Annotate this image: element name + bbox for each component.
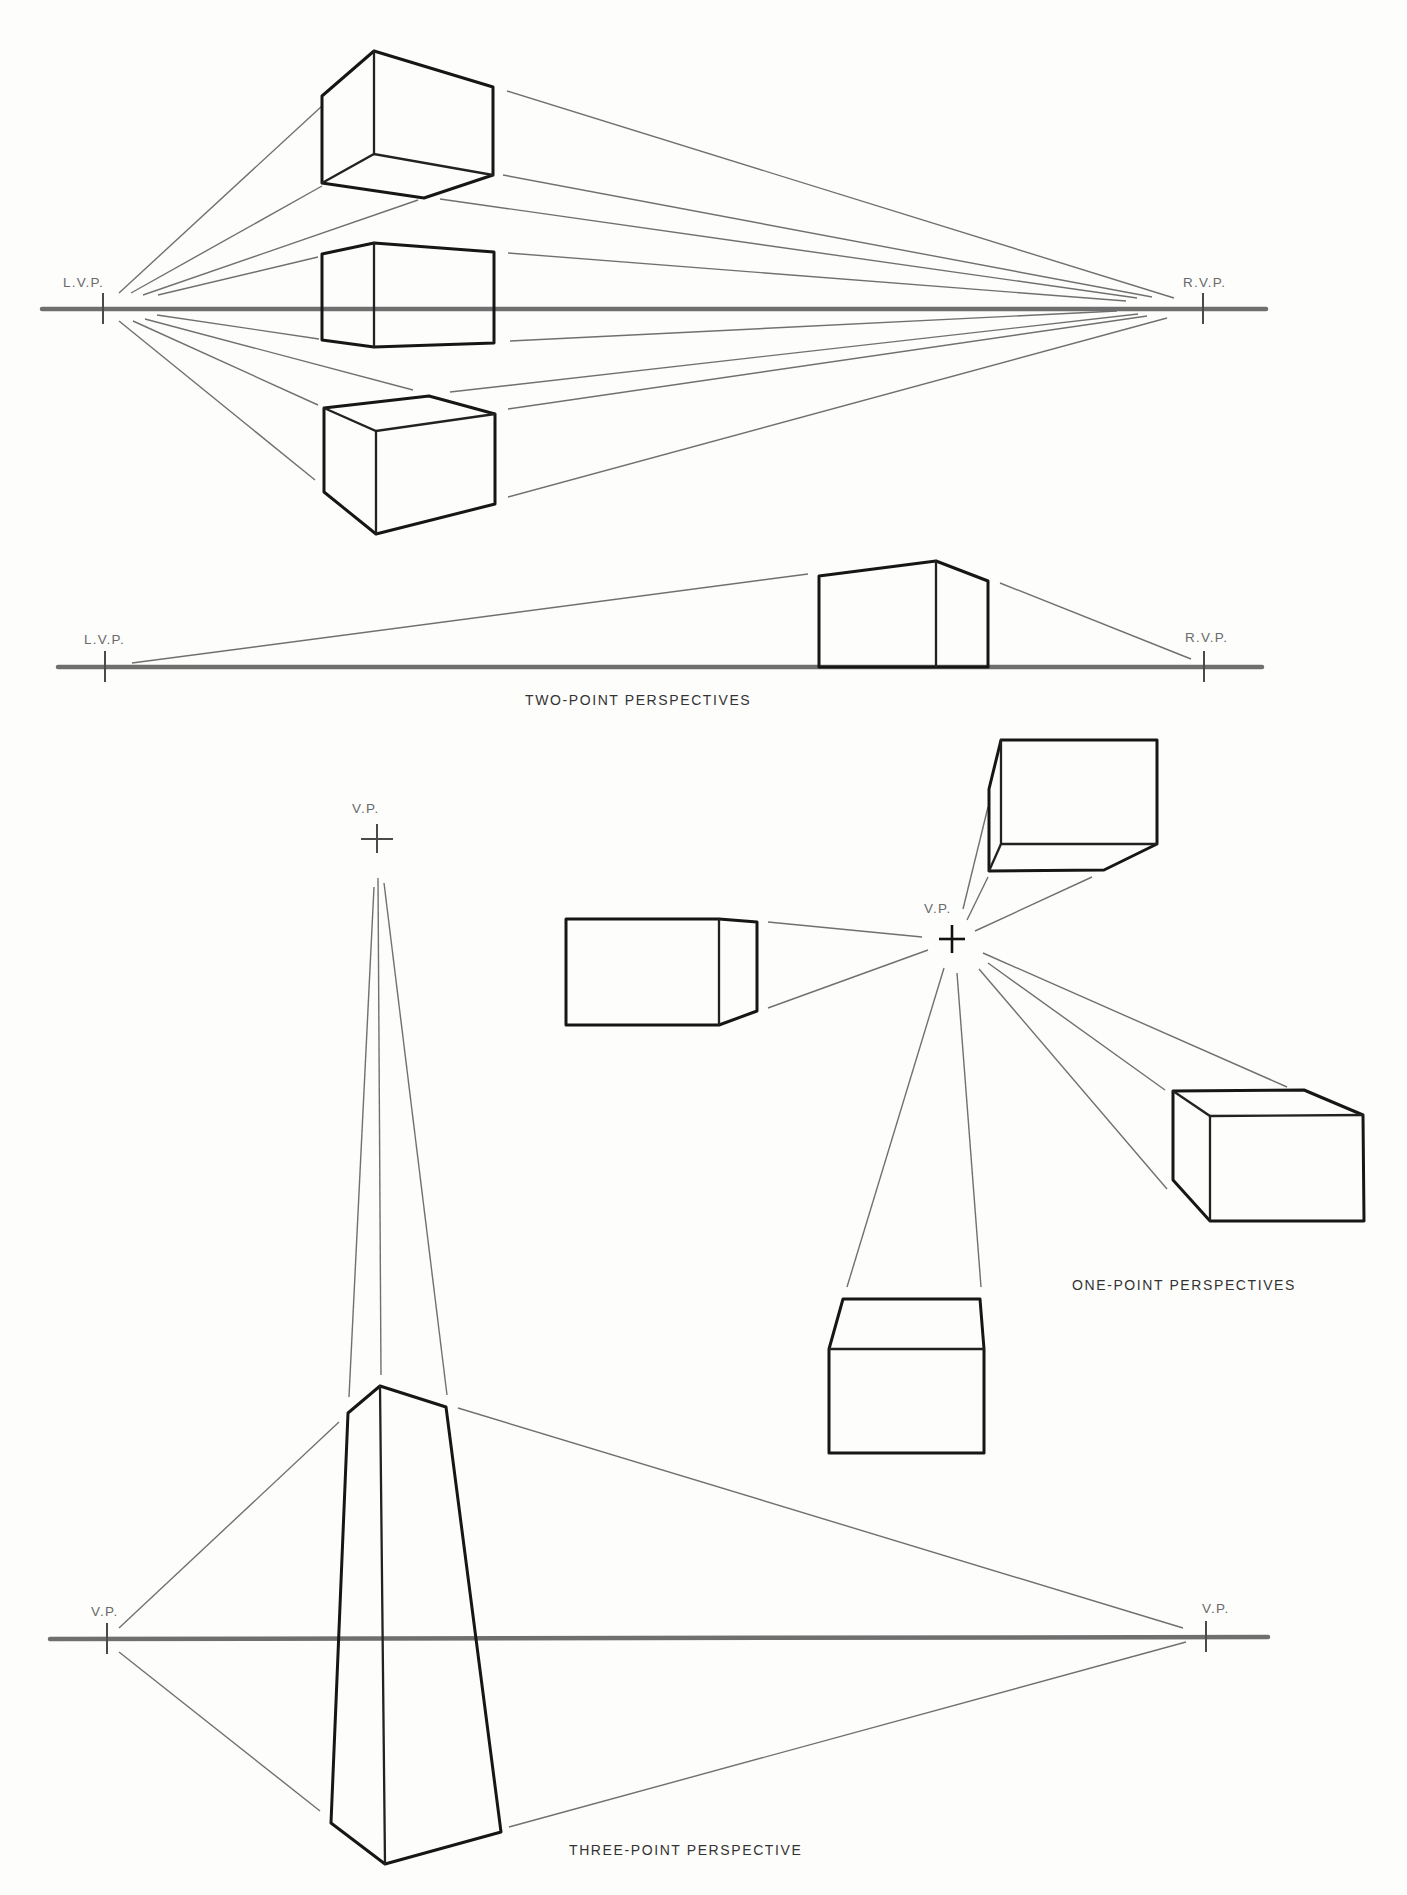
guide-line <box>979 969 1167 1189</box>
solid-edge <box>989 844 1001 871</box>
vp-three-left-label: V.P. <box>91 1604 118 1619</box>
guide-line <box>440 199 1137 298</box>
caption-two-point-perspectives: TWO-POINT PERSPECTIVES <box>525 692 751 708</box>
guide-line <box>508 253 1126 301</box>
rvp-2-label: R.V.P. <box>1185 630 1228 645</box>
guide-line <box>957 973 981 1287</box>
solid-edge <box>322 154 493 183</box>
lvp-1-label: L.V.P. <box>63 275 104 290</box>
solid-edge <box>324 408 495 431</box>
guide-line <box>967 877 988 920</box>
solid-edge <box>829 1299 984 1453</box>
two-point-box-below <box>324 396 495 534</box>
vp-one-point-label: V.P. <box>924 901 951 916</box>
guide-line <box>132 574 808 663</box>
guide-line <box>503 175 1152 297</box>
vp-three-right-label: V.P. <box>1202 1601 1229 1616</box>
one-point-box-left <box>566 919 757 1025</box>
perspective-guide-lines <box>119 91 1287 1827</box>
rvp-1-label: R.V.P. <box>1183 275 1226 290</box>
solid-edge <box>322 51 493 198</box>
guide-line <box>963 807 988 909</box>
perspective-diagram: L.V.P.R.V.P.L.V.P.R.V.P.V.P.V.P.V.P.V.P.… <box>0 0 1407 1895</box>
two-point-box-above <box>322 51 493 198</box>
guide-line <box>131 186 322 293</box>
guide-line <box>349 887 374 1397</box>
guide-line <box>145 319 413 390</box>
one-point-box-top-right <box>989 740 1157 871</box>
solid-edge <box>380 1386 385 1864</box>
vanishing-point-labels: L.V.P.R.V.P.L.V.P.R.V.P.V.P.V.P.V.P.V.P. <box>63 275 1229 1619</box>
guide-line <box>983 953 1287 1087</box>
guide-line <box>1000 583 1191 659</box>
solid-edge <box>331 1386 501 1864</box>
solid-edge <box>1001 740 1157 844</box>
guide-line <box>384 883 447 1395</box>
caption-three-point-perspective: THREE-POINT PERSPECTIVE <box>569 1842 802 1858</box>
guide-line <box>768 922 922 937</box>
perspective-solids <box>322 51 1364 1864</box>
guide-line <box>133 321 318 405</box>
horizon-lines <box>42 309 1268 1639</box>
guide-line <box>768 950 928 1008</box>
caption-one-point-perspectives: ONE-POINT PERSPECTIVES <box>1072 1277 1296 1293</box>
guide-line <box>508 318 1167 497</box>
vp-three-top-marker <box>361 824 393 853</box>
guide-line <box>119 321 315 480</box>
solid-edge <box>989 740 1157 871</box>
lvp-2-label: L.V.P. <box>84 632 125 647</box>
three-point-horizon <box>50 1637 1268 1639</box>
guide-line <box>119 1652 320 1811</box>
one-point-box-bottom-right <box>1173 1090 1364 1221</box>
guide-line <box>508 316 1147 409</box>
vp-three-top-label: V.P. <box>352 801 379 816</box>
guide-line <box>378 878 381 1375</box>
guide-line <box>450 314 1138 392</box>
guide-line <box>119 1422 339 1628</box>
vanishing-points <box>103 293 1206 1654</box>
guide-line <box>458 1408 1183 1628</box>
guide-line <box>988 963 1165 1090</box>
guide-line <box>975 877 1092 931</box>
two-point-box-on-horizon <box>322 243 494 347</box>
solid-edge <box>322 243 494 347</box>
one-point-box-bottom <box>829 1299 984 1453</box>
guide-line <box>847 968 944 1287</box>
three-point-tower <box>331 1386 501 1864</box>
two-point-box-small <box>819 561 988 667</box>
guide-line <box>509 1642 1186 1827</box>
solid-edge <box>566 919 757 1025</box>
solid-edge <box>819 561 988 667</box>
vp-one-point-marker <box>939 925 965 953</box>
guide-line <box>157 315 319 339</box>
guide-line <box>143 200 418 295</box>
guide-line <box>119 106 322 293</box>
